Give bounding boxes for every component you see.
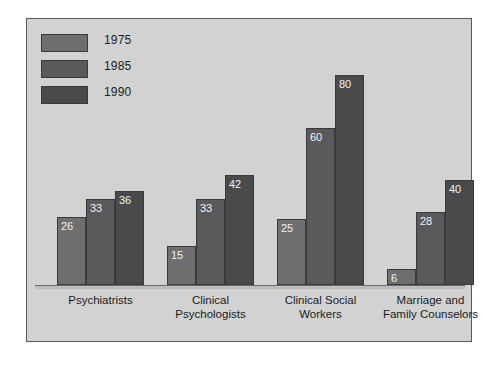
bar-1990-psychiatrists: 36 [115, 191, 144, 285]
chart-panel: 1975 1985 1990 263336Psychiatrists153342… [26, 18, 472, 342]
bar-1985-psychiatrists: 33 [86, 199, 115, 285]
bar-value-label: 40 [449, 183, 461, 195]
bar-1990-clinical-psychologists: 42 [225, 175, 254, 285]
bar-1990-marriage-and-family-counselors: 40 [445, 180, 474, 285]
bar-value-label: 26 [61, 220, 73, 232]
chart-figure: 1975 1985 1990 263336Psychiatrists153342… [0, 0, 503, 365]
bar-value-label: 6 [391, 272, 397, 284]
bar-1985-clinical-psychologists: 33 [196, 199, 225, 285]
bar-value-label: 33 [90, 202, 102, 214]
bar-1975-clinical-social-workers: 25 [277, 219, 306, 285]
bar-value-label: 60 [310, 131, 322, 143]
bar-group-bars: 263336 [57, 191, 144, 285]
bar-value-label: 25 [281, 222, 293, 234]
bar-1990-clinical-social-workers: 80 [335, 75, 364, 285]
x-axis-shadow [35, 286, 465, 289]
bar-1985-marriage-and-family-counselors: 28 [416, 212, 445, 285]
bar-group-bars: 256080 [277, 75, 364, 285]
plot-area: 263336Psychiatrists153342Clinical Psycho… [27, 19, 473, 343]
bar-1975-clinical-psychologists: 15 [167, 246, 196, 285]
bar-1985-clinical-social-workers: 60 [306, 128, 335, 285]
bar-value-label: 80 [339, 78, 351, 90]
bar-value-label: 15 [171, 249, 183, 261]
x-axis-category-label: Marriage and Family Counselors [366, 293, 496, 321]
bar-value-label: 36 [119, 194, 131, 206]
bar-1975-marriage-and-family-counselors: 6 [387, 269, 416, 285]
bar-value-label: 33 [200, 202, 212, 214]
bar-value-label: 42 [229, 178, 241, 190]
bar-group-bars: 153342 [167, 175, 254, 285]
bar-value-label: 28 [420, 215, 432, 227]
bar-1975-psychiatrists: 26 [57, 217, 86, 285]
bar-group-bars: 62840 [387, 180, 474, 285]
